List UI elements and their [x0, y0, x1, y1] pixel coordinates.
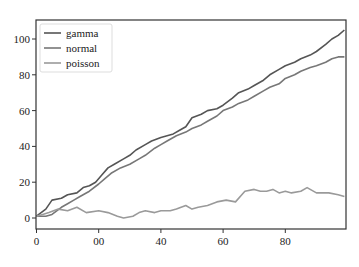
y-tick-label: 80	[19, 69, 31, 81]
y-tick-label: 0	[25, 212, 31, 224]
x-tick-label: 60	[218, 235, 230, 247]
legend-label-poisson: poisson	[66, 57, 100, 69]
legend-label-normal: normal	[66, 42, 97, 54]
x-tick-label: 80	[280, 235, 292, 247]
line-chart: 020406080100 000406080 gammanormalpoisso…	[0, 0, 359, 267]
x-tick-label: 40	[155, 235, 167, 247]
x-tick-label: 0	[34, 235, 40, 247]
x-axis: 000406080	[34, 229, 292, 247]
y-tick-label: 100	[14, 33, 31, 45]
legend-label-gamma: gamma	[66, 27, 98, 39]
x-tick-label: 00	[93, 235, 105, 247]
series-line-poisson	[37, 188, 345, 218]
y-tick-label: 60	[19, 105, 31, 117]
y-tick-label: 20	[19, 176, 31, 188]
legend: gammanormalpoisson	[40, 24, 112, 72]
y-axis: 020406080100	[14, 33, 37, 224]
y-tick-label: 40	[19, 140, 31, 152]
